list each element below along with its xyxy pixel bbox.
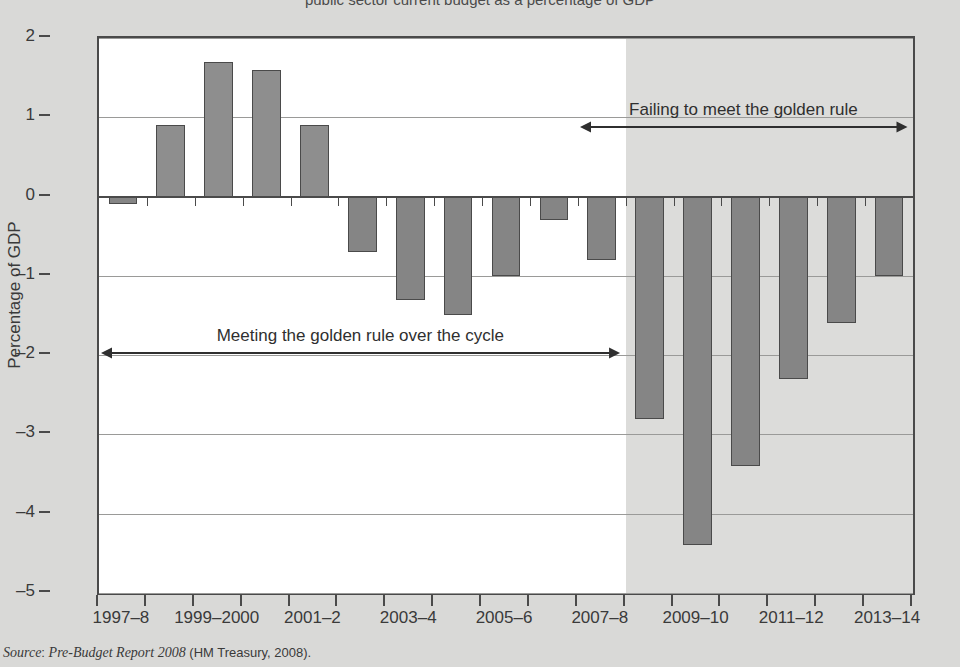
bar[interactable] (156, 125, 185, 196)
y-tick-mark (39, 431, 50, 433)
x-tick-label: 2011–12 (759, 608, 824, 628)
bar[interactable] (444, 197, 473, 316)
source-label: Source (3, 645, 41, 660)
x-tick-mark (240, 595, 242, 606)
figure-title-strip: public sector current budget as a percen… (0, 0, 960, 20)
source-title: Pre-Budget Report 2008 (49, 645, 186, 660)
gridline (99, 593, 913, 594)
x-tick-inner (721, 197, 722, 206)
y-tick-label: 0 (26, 185, 35, 205)
bar[interactable] (204, 62, 233, 197)
x-tick-inner (530, 197, 531, 206)
x-tick-mark (862, 595, 864, 606)
y-tick-mark (39, 273, 50, 275)
y-tick-label: –5 (16, 581, 35, 601)
x-tick-mark (383, 595, 385, 606)
x-tick-label: 2007–8 (571, 608, 628, 628)
bar[interactable] (875, 197, 904, 276)
bar[interactable] (300, 125, 329, 196)
y-axis-title: Percentage of GDP (5, 125, 25, 465)
x-tick-mark (144, 595, 146, 606)
bar[interactable] (396, 197, 425, 300)
x-tick-mark (431, 595, 433, 606)
bar[interactable] (731, 197, 760, 467)
x-tick-mark (910, 595, 912, 606)
y-tick-label: 2 (26, 26, 35, 46)
y-tick-mark (39, 114, 50, 116)
gridline (99, 514, 913, 515)
x-tick-mark (671, 595, 673, 606)
x-tick-inner (626, 197, 627, 206)
x-tick-mark (718, 595, 720, 606)
x-tick-inner (147, 197, 148, 206)
x-tick-mark (335, 595, 337, 606)
y-tick-label: –2 (16, 343, 35, 363)
x-tick-mark (96, 595, 98, 606)
bar[interactable] (683, 197, 712, 546)
x-tick-label: 2003–4 (380, 608, 437, 628)
y-tick-mark (39, 352, 50, 354)
x-tick-mark (479, 595, 481, 606)
x-tick-mark (575, 595, 577, 606)
x-tick-inner (769, 197, 770, 206)
x-tick-inner (817, 197, 818, 206)
y-tick-mark (39, 590, 50, 592)
bar[interactable] (252, 70, 281, 197)
x-tick-label: 1997–8 (93, 608, 150, 628)
y-tick-label: –3 (16, 422, 35, 442)
x-tick-mark (623, 595, 625, 606)
source-note: Source: Pre-Budget Report 2008 (HM Treas… (3, 645, 311, 661)
failing-golden-rule-arrow-icon (578, 119, 910, 135)
y-tick-mark (39, 511, 50, 513)
x-tick-label: 1999–2000 (174, 608, 259, 628)
failing-golden-rule-annotation-label: Failing to meet the golden rule (629, 100, 858, 120)
bar[interactable] (109, 197, 138, 205)
x-tick-inner (578, 197, 579, 206)
bar[interactable] (492, 197, 521, 276)
meeting-golden-rule-arrow-icon (99, 345, 622, 361)
y-tick-label: –1 (16, 264, 35, 284)
x-tick-label: 2005–6 (476, 608, 533, 628)
x-tick-mark (527, 595, 529, 606)
source-publisher: (HM Treasury, 2008). (186, 645, 311, 660)
x-tick-inner (482, 197, 483, 206)
x-tick-inner (386, 197, 387, 206)
x-tick-mark (814, 595, 816, 606)
figure-title: public sector current budget as a percen… (0, 0, 960, 8)
gridline (99, 38, 913, 39)
x-tick-inner (913, 197, 914, 206)
x-tick-label: 2009–10 (662, 608, 728, 628)
bar[interactable] (635, 197, 664, 419)
x-tick-inner (674, 197, 675, 206)
bar[interactable] (348, 197, 377, 253)
x-tick-inner (434, 197, 435, 206)
x-tick-mark (766, 595, 768, 606)
x-tick-inner (291, 197, 292, 206)
x-tick-label: 2001–2 (284, 608, 341, 628)
figure-page: { "figure": { "partial_title": "public s… (0, 0, 960, 667)
y-tick-mark (39, 35, 50, 37)
bar[interactable] (540, 197, 569, 221)
x-tick-mark (192, 595, 194, 606)
y-tick-label: 1 (26, 105, 35, 125)
x-tick-inner (338, 197, 339, 206)
x-tick-inner (243, 197, 244, 206)
x-tick-inner (195, 197, 196, 206)
y-axis: Percentage of GDP 210–1–2–3–4–5 (0, 0, 97, 667)
source-colon: : (41, 645, 48, 660)
bar[interactable] (587, 197, 616, 260)
x-tick-inner (865, 197, 866, 206)
bar[interactable] (779, 197, 808, 379)
y-tick-label: –4 (16, 502, 35, 522)
bar[interactable] (827, 197, 856, 324)
x-tick-mark (288, 595, 290, 606)
meeting-golden-rule-annotation-label: Meeting the golden rule over the cycle (217, 326, 504, 346)
x-tick-label: 2013–14 (854, 608, 920, 628)
y-tick-mark (39, 194, 50, 196)
gridline (99, 434, 913, 435)
